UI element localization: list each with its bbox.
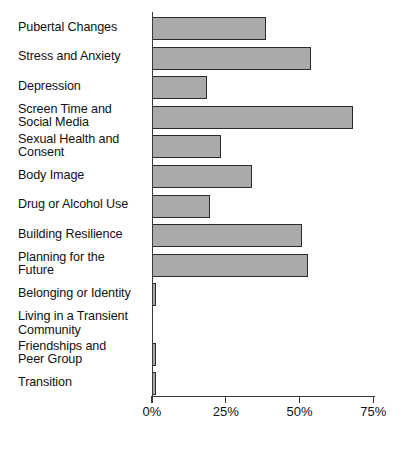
plot-area xyxy=(152,0,405,396)
category-label: Body Image xyxy=(18,169,150,182)
x-axis-tick xyxy=(225,396,226,403)
category-label: Belonging or Identity xyxy=(18,287,150,300)
bar xyxy=(152,165,252,188)
x-axis-tick-label: 0% xyxy=(143,404,162,419)
category-label: Pubertal Changes xyxy=(18,21,150,34)
x-axis-line xyxy=(152,396,375,398)
category-label: Drug or Alcohol Use xyxy=(18,198,150,211)
x-axis-tick-label: 25% xyxy=(213,404,239,419)
horizontal-bar-chart: Pubertal ChangesStress and AnxietyDepres… xyxy=(0,0,405,449)
bar xyxy=(152,106,353,129)
x-axis-tick xyxy=(373,396,374,403)
category-label: Transition xyxy=(18,376,150,389)
category-label: Screen Time and Social Media xyxy=(18,103,150,130)
x-axis-tick-label: 50% xyxy=(286,404,312,419)
category-label-column: Pubertal ChangesStress and AnxietyDepres… xyxy=(0,0,152,396)
bar xyxy=(152,76,207,99)
category-label: Stress and Anxiety xyxy=(18,50,150,63)
x-axis-tick-label: 75% xyxy=(360,404,386,419)
y-axis-line xyxy=(152,12,154,397)
x-axis-tick xyxy=(151,396,152,403)
category-label: Depression xyxy=(18,80,150,93)
bar xyxy=(152,254,308,277)
bar xyxy=(152,17,266,40)
category-label: Living in a Transient Community xyxy=(18,310,150,337)
category-label: Friendships and Peer Group xyxy=(18,340,150,367)
bar xyxy=(152,47,311,70)
x-axis-tick xyxy=(299,396,300,403)
category-label: Planning for the Future xyxy=(18,251,150,278)
bar xyxy=(152,135,221,158)
category-label: Building Resilience xyxy=(18,228,150,241)
bar xyxy=(152,195,210,218)
category-label: Sexual Health and Consent xyxy=(18,133,150,160)
bar xyxy=(152,224,302,247)
